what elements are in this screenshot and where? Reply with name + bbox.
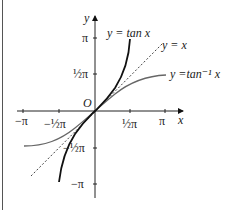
y-tick-half-pi: ½π: [73, 67, 88, 81]
label-arctan: y =tan⁻¹ x: [169, 67, 221, 81]
x-tick-neg-half-pi: −½π: [44, 117, 66, 131]
y-tick-pi: π: [82, 31, 88, 45]
y-tick-neg-half-pi: −½π: [63, 141, 85, 155]
x-tick-half-pi: ½π: [122, 117, 137, 131]
origin-label: O: [83, 96, 92, 110]
y-tick-neg-pi: −π: [71, 177, 84, 191]
y-axis-label: y: [83, 11, 90, 25]
x-tick-neg-pi: −π: [15, 114, 28, 128]
label-identity: y = x: [161, 38, 187, 52]
x-tick-pi: π: [159, 114, 165, 128]
label-tan: y = tan x: [106, 26, 151, 40]
x-axis-label: x: [177, 113, 184, 127]
function-graph: y x O π ½π −½π −π −π −½π ½π π y = tan x …: [0, 0, 229, 210]
